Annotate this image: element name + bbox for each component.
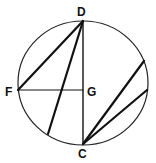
point-label-f: F [5, 85, 12, 99]
segment-D-chord [48, 21, 83, 134]
segment-C-upper-chord [83, 61, 144, 144]
point-label-c: C [78, 147, 87, 161]
diagram-canvas: DFGC [0, 0, 156, 163]
point-label-g: G [87, 85, 96, 99]
geometry-diagram: DFGC [0, 0, 156, 163]
point-label-d: D [77, 5, 86, 19]
